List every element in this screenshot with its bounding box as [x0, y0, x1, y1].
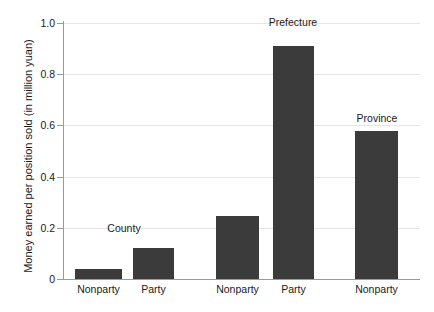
- bar[interactable]: [273, 46, 314, 279]
- bar[interactable]: [355, 131, 398, 279]
- gridline: [63, 74, 420, 75]
- group-label: Province: [357, 112, 398, 124]
- y-tick-label: 0.6: [15, 120, 55, 131]
- plot-area: [63, 23, 420, 279]
- y-axis-title: Money earned per position sold (in milli…: [18, 0, 38, 312]
- bar[interactable]: [75, 269, 122, 279]
- x-tick-label: Nonparty: [355, 283, 398, 295]
- y-tick-label: 0.4: [15, 172, 55, 183]
- y-axis-line: [63, 21, 64, 280]
- y-tick-label: 1.0: [15, 18, 55, 29]
- x-tick-label: Nonparty: [216, 283, 259, 295]
- y-tick-mark: [57, 228, 63, 229]
- x-axis-line: [63, 279, 420, 280]
- bar-chart: Money earned per position sold (in milli…: [0, 0, 434, 312]
- group-label: County: [107, 222, 140, 234]
- y-tick-label: 0.2: [15, 223, 55, 234]
- bar[interactable]: [216, 216, 259, 279]
- y-tick-mark: [57, 74, 63, 75]
- y-tick-mark: [57, 177, 63, 178]
- x-tick-label: Party: [281, 283, 306, 295]
- x-tick-label: Party: [141, 283, 166, 295]
- y-tick-mark: [57, 125, 63, 126]
- y-tick-mark: [57, 23, 63, 24]
- y-tick-mark: [57, 279, 63, 280]
- x-tick-label: Nonparty: [77, 283, 120, 295]
- bar[interactable]: [133, 248, 174, 279]
- y-tick-label: 0: [15, 274, 55, 285]
- group-label: Prefecture: [269, 16, 317, 28]
- y-tick-label: 0.8: [15, 69, 55, 80]
- gridline: [63, 23, 420, 24]
- gridline: [63, 125, 420, 126]
